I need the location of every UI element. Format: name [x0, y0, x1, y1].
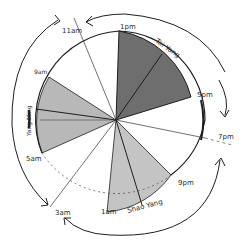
label-1pm: 1pm: [120, 23, 136, 31]
arrow-right-top: [219, 80, 227, 115]
label-yang-ming: Yang Ming: [25, 105, 33, 137]
sectors: [36, 31, 191, 212]
label-9am: 9am: [34, 68, 47, 75]
arrow-top-head: [86, 16, 93, 26]
arrow-bottom-head: [64, 218, 71, 225]
sector-tai-yang: [116, 31, 191, 120]
label-5pm: 5pm: [197, 91, 213, 99]
label-3am: 3am: [55, 209, 71, 217]
arrow-right-top-head: [220, 110, 229, 117]
label-5am: 5am: [26, 155, 42, 163]
label-7pm: 7pm: [218, 133, 234, 141]
label-11am: 11am: [62, 27, 82, 35]
circadian-clock-diagram: 11am 1pm 5pm 7pm 9pm 1am 3am 5am 9am Tai…: [0, 0, 247, 250]
label-1am: 1am: [101, 208, 117, 216]
label-9pm: 9pm: [178, 179, 194, 187]
arrow-left-top-head: [54, 15, 60, 25]
